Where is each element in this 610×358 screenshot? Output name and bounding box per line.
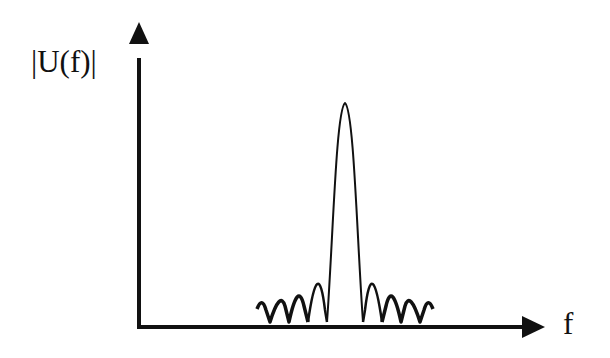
x-axis-arrow-icon xyxy=(522,316,545,338)
y-axis-arrow-icon xyxy=(129,22,149,44)
sinc-curve xyxy=(257,103,433,322)
right-side-lobes xyxy=(382,296,433,322)
x-axis-label: f xyxy=(563,306,573,342)
left-inner-lobe xyxy=(308,284,327,322)
main-lobe xyxy=(327,103,363,322)
left-side-lobes xyxy=(257,296,308,322)
right-inner-lobe xyxy=(363,284,382,322)
y-axis-label: |U(f)| xyxy=(31,44,97,80)
